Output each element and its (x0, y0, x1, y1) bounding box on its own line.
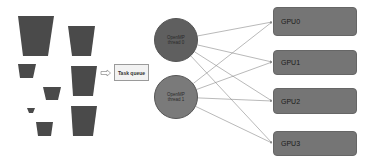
task-block (18, 64, 36, 78)
task-blocks (18, 16, 97, 136)
thread-gpu-edges (191, 22, 272, 143)
task-queue-label: Task queue (118, 70, 145, 76)
enqueue-arrow-icon (101, 70, 111, 76)
task-block (68, 26, 95, 56)
thread-to-gpu-arrow (193, 22, 272, 83)
thread-0-label-line2: thread 0 (168, 40, 185, 45)
gpu-2-box: GPU2 (273, 88, 357, 114)
task-block (18, 16, 54, 56)
task-block (71, 106, 97, 136)
openmp-thread-0: OpenMP thread 0 (154, 18, 198, 62)
thread-to-gpu-arrow (198, 22, 272, 36)
task-queue-box: Task queue (114, 64, 149, 81)
thread-to-gpu-arrow (196, 107, 272, 143)
gpu-1-label: GPU1 (281, 59, 300, 66)
gpu-0-box: GPU0 (273, 7, 357, 36)
gpu-2-label: GPU2 (281, 98, 300, 105)
thread-to-gpu-arrow (197, 45, 272, 62)
gpu-3-label: GPU3 (281, 140, 300, 147)
thread-1-label-line2: thread 1 (168, 97, 185, 102)
thread-to-gpu-arrow (197, 62, 272, 89)
gpu-3-box: GPU3 (273, 131, 357, 156)
gpu-1-box: GPU1 (273, 50, 357, 75)
task-block (27, 108, 35, 113)
gpu-0-label: GPU0 (281, 18, 300, 25)
task-block (36, 122, 53, 136)
openmp-thread-1: OpenMP thread 1 (154, 75, 198, 119)
task-block (43, 87, 61, 100)
task-block (71, 66, 97, 96)
thread-to-gpu-arrow (198, 98, 272, 101)
